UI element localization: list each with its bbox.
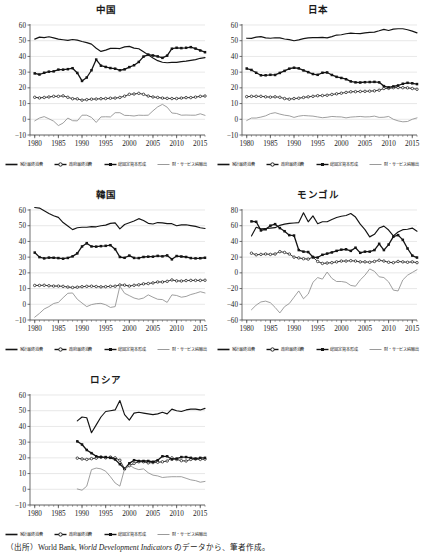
svg-text:1995: 1995 bbox=[310, 140, 325, 148]
legend-item-4-korea[interactable]: 財・サービス純輸出 bbox=[157, 346, 207, 353]
svg-text:0: 0 bbox=[22, 116, 26, 124]
svg-text:60: 60 bbox=[19, 207, 27, 215]
legend-marker-open-circle-icon bbox=[266, 346, 279, 353]
legend-item-4-russia[interactable]: 財・サービス純輸出 bbox=[157, 531, 207, 538]
svg-text:30: 30 bbox=[19, 439, 27, 447]
svg-text:2000: 2000 bbox=[334, 140, 349, 148]
svg-text:50: 50 bbox=[19, 37, 27, 45]
legend-item-2-mongolia[interactable]: 政府最終消費 bbox=[266, 346, 304, 353]
svg-text:30: 30 bbox=[231, 69, 239, 77]
legend-marker-thin-gray-icon bbox=[157, 531, 170, 538]
legend-item-4-mongolia[interactable]: 財・サービス純輸出 bbox=[369, 346, 419, 353]
legend-item-2-japan[interactable]: 政府最終消費 bbox=[266, 161, 304, 168]
svg-text:1990: 1990 bbox=[75, 325, 90, 333]
svg-text:1995: 1995 bbox=[310, 325, 325, 333]
svg-text:1995: 1995 bbox=[98, 325, 113, 333]
svg-text:10: 10 bbox=[19, 285, 27, 293]
legend-item-1-korea[interactable]: 家計最終消費 bbox=[5, 346, 43, 353]
svg-text:40: 40 bbox=[231, 238, 239, 246]
svg-text:1990: 1990 bbox=[75, 140, 90, 148]
legend-marker-open-circle-icon bbox=[54, 346, 67, 353]
legend-marker-solid-thick-icon bbox=[5, 346, 18, 353]
legend-label: 総固定資本形成 bbox=[118, 532, 145, 537]
legend-item-3-mongolia[interactable]: 総固定資本形成 bbox=[316, 346, 358, 353]
legend-item-3-japan[interactable]: 総固定資本形成 bbox=[316, 161, 358, 168]
legend-label: 財・サービス純輸出 bbox=[384, 162, 419, 167]
legend-marker-filled-square-icon bbox=[104, 346, 117, 353]
svg-text:2010: 2010 bbox=[381, 325, 396, 333]
svg-text:−10: −10 bbox=[15, 502, 27, 510]
legend-item-3-korea[interactable]: 総固定資本形成 bbox=[104, 346, 146, 353]
svg-text:2015: 2015 bbox=[405, 140, 420, 148]
legend-item-3-china[interactable]: 総固定資本形成 bbox=[104, 161, 146, 168]
svg-text:1990: 1990 bbox=[75, 510, 90, 518]
svg-text:2000: 2000 bbox=[122, 140, 137, 148]
svg-text:0: 0 bbox=[22, 301, 26, 309]
legend-label: 財・サービス純輸出 bbox=[384, 347, 419, 352]
svg-text:80: 80 bbox=[231, 207, 239, 215]
chart-legend-japan: 家計最終消費政府最終消費総固定資本形成財・サービス純輸出 bbox=[212, 159, 424, 170]
svg-text:60: 60 bbox=[19, 392, 27, 400]
svg-text:2005: 2005 bbox=[358, 325, 373, 333]
svg-text:50: 50 bbox=[231, 37, 239, 45]
chart-panel-russia: ロシア −10010203040506019801985199019952000… bbox=[0, 370, 212, 555]
legend-marker-thin-gray-icon bbox=[369, 346, 382, 353]
svg-text:1985: 1985 bbox=[51, 140, 66, 148]
svg-text:1995: 1995 bbox=[98, 140, 113, 148]
chart-title-japan: 日本 bbox=[212, 4, 424, 17]
svg-text:−20: −20 bbox=[227, 285, 239, 293]
chart-legend-mongolia: 家計最終消費政府最終消費総固定資本形成財・サービス純輸出 bbox=[212, 344, 424, 355]
svg-text:50: 50 bbox=[19, 407, 27, 415]
svg-text:40: 40 bbox=[19, 238, 27, 246]
legend-item-1-japan[interactable]: 家計最終消費 bbox=[217, 161, 255, 168]
svg-text:0: 0 bbox=[234, 269, 238, 277]
legend-marker-open-circle-icon bbox=[54, 161, 67, 168]
legend-label: 家計最終消費 bbox=[20, 532, 43, 537]
chart-title-russia: ロシア bbox=[0, 374, 212, 387]
svg-text:2010: 2010 bbox=[169, 325, 184, 333]
svg-text:1985: 1985 bbox=[263, 325, 278, 333]
legend-item-1-mongolia[interactable]: 家計最終消費 bbox=[217, 346, 255, 353]
svg-text:2005: 2005 bbox=[146, 140, 161, 148]
legend-item-2-russia[interactable]: 政府最終消費 bbox=[54, 531, 92, 538]
legend-item-2-korea[interactable]: 政府最終消費 bbox=[54, 346, 92, 353]
plot-area-mongolia: −60−40−200204060801980198519901995200020… bbox=[212, 202, 424, 342]
svg-text:1985: 1985 bbox=[51, 510, 66, 518]
svg-text:10: 10 bbox=[19, 100, 27, 108]
chart-legend-china: 家計最終消費政府最終消費総固定資本形成財・サービス純輸出 bbox=[0, 159, 212, 170]
legend-marker-filled-square-icon bbox=[104, 161, 117, 168]
svg-text:2010: 2010 bbox=[169, 510, 184, 518]
source-note: （出所）World Bank, World Development Indica… bbox=[6, 542, 420, 553]
legend-item-2-china[interactable]: 政府最終消費 bbox=[54, 161, 92, 168]
svg-text:1985: 1985 bbox=[51, 325, 66, 333]
legend-item-4-china[interactable]: 財・サービス純輸出 bbox=[157, 161, 207, 168]
svg-text:2000: 2000 bbox=[122, 510, 137, 518]
svg-text:10: 10 bbox=[19, 470, 27, 478]
legend-item-3-russia[interactable]: 総固定資本形成 bbox=[104, 531, 146, 538]
legend-item-1-china[interactable]: 家計最終消費 bbox=[5, 161, 43, 168]
svg-text:40: 40 bbox=[19, 53, 27, 61]
legend-item-4-japan[interactable]: 財・サービス純輸出 bbox=[369, 161, 419, 168]
svg-text:20: 20 bbox=[19, 84, 27, 92]
svg-text:50: 50 bbox=[19, 222, 27, 230]
svg-text:40: 40 bbox=[231, 53, 239, 61]
svg-text:2005: 2005 bbox=[146, 325, 161, 333]
legend-label: 総固定資本形成 bbox=[118, 162, 145, 167]
source-prefix: （出所） bbox=[6, 543, 38, 552]
svg-text:40: 40 bbox=[19, 423, 27, 431]
svg-text:1980: 1980 bbox=[28, 140, 43, 148]
svg-text:1980: 1980 bbox=[240, 325, 255, 333]
chart-title-china: 中国 bbox=[0, 4, 212, 17]
legend-label: 政府最終消費 bbox=[281, 347, 304, 352]
legend-label: 財・サービス純輸出 bbox=[172, 532, 207, 537]
legend-item-1-russia[interactable]: 家計最終消費 bbox=[5, 531, 43, 538]
svg-text:−60: −60 bbox=[227, 317, 239, 325]
legend-marker-filled-square-icon bbox=[104, 531, 117, 538]
legend-label: 財・サービス純輸出 bbox=[172, 162, 207, 167]
svg-text:0: 0 bbox=[22, 486, 26, 494]
legend-label: 政府最終消費 bbox=[69, 162, 92, 167]
svg-text:30: 30 bbox=[19, 69, 27, 77]
svg-text:−10: −10 bbox=[15, 132, 27, 140]
legend-marker-open-circle-icon bbox=[54, 531, 67, 538]
legend-label: 総固定資本形成 bbox=[330, 162, 357, 167]
